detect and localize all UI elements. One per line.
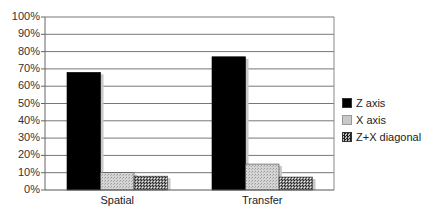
y-tick-label: 50% xyxy=(0,97,40,109)
legend-label: X axis xyxy=(356,114,386,126)
y-tick-label: 100% xyxy=(0,10,40,22)
bar-transfer-1 xyxy=(246,164,280,190)
y-tick-label: 0% xyxy=(0,183,40,195)
legend-item-x-axis: X axis xyxy=(342,111,421,128)
bars xyxy=(67,57,316,190)
y-tick-label: 80% xyxy=(0,45,40,57)
legend-label: Z axis xyxy=(356,97,385,109)
y-tick-label: 10% xyxy=(0,166,40,178)
legend-item-zx-diagonal: Z+X diagonal xyxy=(342,128,421,145)
bar-spatial-2 xyxy=(134,176,168,190)
legend-swatch-solid-icon xyxy=(342,98,352,108)
bar-chart: 0%10%20%30%40%50%60%70%80%90%100% Spatia… xyxy=(0,0,432,214)
bar-spatial-1 xyxy=(101,173,135,190)
x-category-label: Transfer xyxy=(212,194,312,206)
y-tick-label: 70% xyxy=(0,62,40,74)
y-tick-label: 60% xyxy=(0,79,40,91)
legend-label: Z+X diagonal xyxy=(356,131,421,143)
y-tick-label: 30% xyxy=(0,131,40,143)
y-tick-label: 20% xyxy=(0,148,40,160)
legend-swatch-stipple-icon xyxy=(342,115,352,125)
x-category-label: Spatial xyxy=(67,194,167,206)
bar-transfer-0 xyxy=(212,57,246,190)
legend-swatch-checker-icon xyxy=(342,132,352,142)
bar-transfer-2 xyxy=(279,177,313,190)
bar-spatial-0 xyxy=(67,72,101,190)
y-tick-label: 40% xyxy=(0,114,40,126)
legend: Z axis X axis Z+X diagonal xyxy=(342,94,421,145)
y-tick-label: 90% xyxy=(0,27,40,39)
legend-item-z-axis: Z axis xyxy=(342,94,421,111)
